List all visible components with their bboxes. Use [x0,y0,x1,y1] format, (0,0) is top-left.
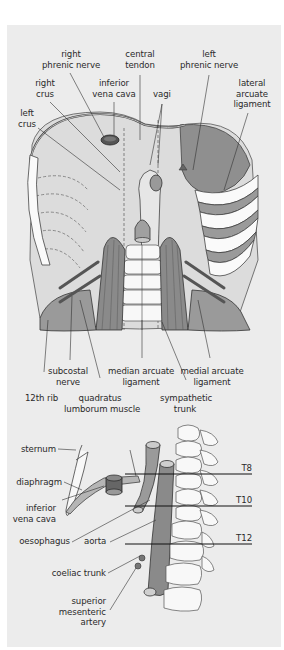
label-median-arcuate-ligament: median arcuate ligament [108,366,174,387]
label-right-phrenic-nerve: right phrenic nerve [42,49,100,70]
label-coeliac-trunk: coeliac trunk [40,568,106,579]
label-level-t8: T8 [226,463,252,474]
label-right-crus: right crus [32,78,58,99]
label-central-tendon: central tendon [122,49,158,70]
label-left-crus: left crus [16,108,38,129]
label-aorta: aorta [84,536,110,547]
label-level-t10: T10 [226,495,252,506]
label-sympathetic-trunk: sympathetic trunk [160,393,210,414]
label-diaphragm: diaphragm [12,477,62,488]
label-vagi: vagi [150,89,174,100]
label-quadratus-lumborum-muscle: quadratus lumborum muscle [64,393,136,414]
label-left-phrenic-nerve: left phrenic nerve [180,49,238,70]
label-medial-arcuate-ligament: medial arcuate ligament [180,366,244,387]
label-oesophagus: oesophagus [16,536,70,547]
label-subcostal-nerve: subcostal nerve [48,366,88,387]
label-level-t12: T12 [226,533,252,544]
label-12th-rib: 12th rib [25,393,61,404]
label-inferior-vena-cava-lateral: inferior vena cava [12,503,56,524]
label-inferior-vena-cava: inferior vena cava [92,78,136,99]
label-superior-mesenteric-artery: superior mesenteric artery [56,596,106,628]
label-lateral-arcuate-ligament: lateral arcuate ligament [232,78,272,110]
label-sternum: sternum [16,444,56,455]
